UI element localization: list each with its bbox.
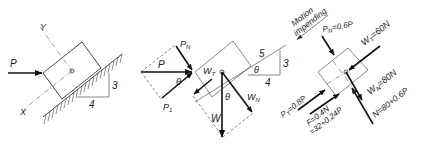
panel-c-free-body: Motion impending PN=0.6P WT=60N WN=80N N… xyxy=(279,0,411,137)
x-axis-line xyxy=(327,72,346,84)
force-pn-label: PN xyxy=(180,39,191,50)
force-p-label: P xyxy=(10,58,17,69)
motion-impending-note: Motion impending xyxy=(284,0,330,41)
panel-b-components: P θ PN P1 W WT WN θ θ 5 3 4 xyxy=(141,39,289,137)
slope-run-label: 4 xyxy=(89,99,95,110)
tri-rise-label: 3 xyxy=(283,58,289,69)
panel-a-setup: Y X P 3 4 xyxy=(8,22,122,124)
force-w-label: W xyxy=(211,113,222,124)
y-axis-line xyxy=(333,61,352,86)
force-pt-label: PT=0.8P xyxy=(279,94,309,121)
force-pt-label: P1 xyxy=(163,102,172,113)
theta-label-w: θ xyxy=(225,92,230,102)
tri-hyp-label: 5 xyxy=(259,48,265,59)
theta-label-p: θ xyxy=(176,77,181,87)
wt-dashed-construction xyxy=(223,113,253,137)
force-wt-label: WT xyxy=(203,66,217,77)
force-wt-label: WT=60N xyxy=(359,18,393,48)
tri-run-label: 4 xyxy=(265,77,271,88)
axis-y-label: Y xyxy=(40,22,47,32)
pt-dashed-construction xyxy=(141,72,161,99)
incline-diagram-figure: Y X P 3 4 P θ PN P1 W WT WN θ xyxy=(0,0,429,154)
ground-hatching xyxy=(44,54,122,124)
force-pn-arrow xyxy=(322,36,334,55)
block xyxy=(318,48,368,96)
slope-rise-label: 3 xyxy=(112,80,118,91)
theta-label-slope: θ xyxy=(254,65,259,75)
force-p-label: P xyxy=(158,59,165,70)
y-axis-line xyxy=(40,27,72,71)
force-wn-label: WN xyxy=(247,92,261,103)
axis-x-label: X xyxy=(19,107,27,117)
force-wt-arrow xyxy=(194,79,212,94)
force-pn-label: PN=0.6P xyxy=(322,20,355,35)
